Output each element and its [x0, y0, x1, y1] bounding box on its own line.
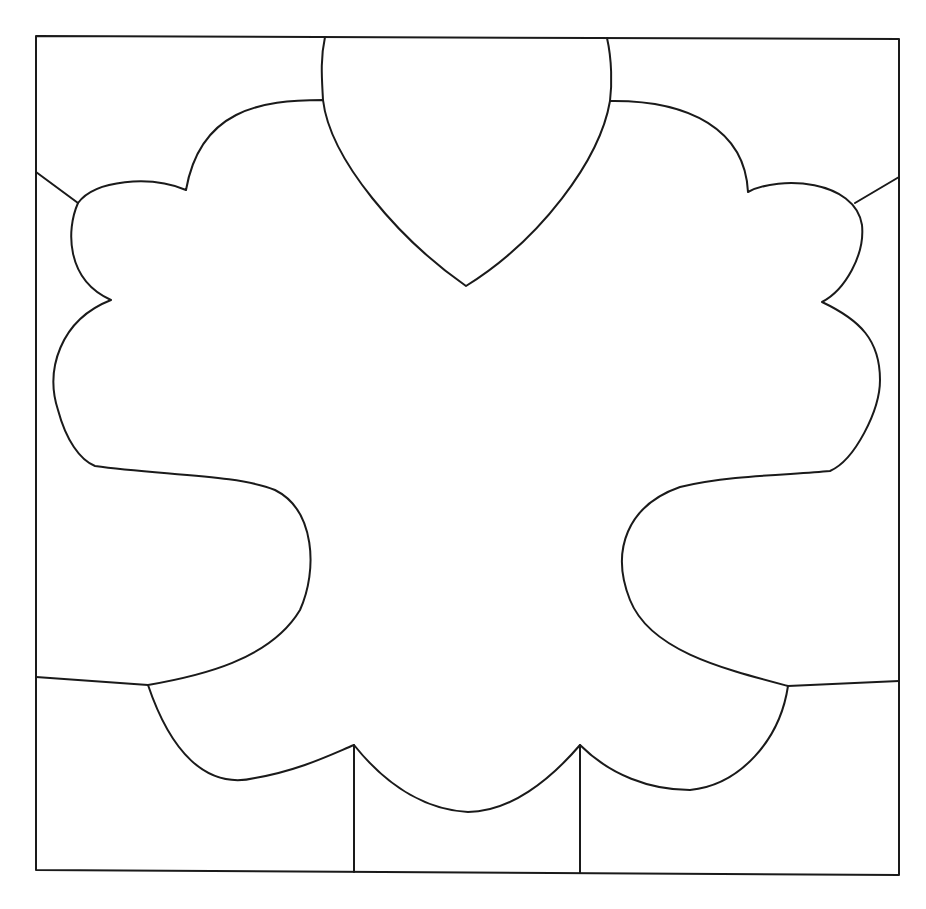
diagram-background	[0, 0, 926, 909]
diagram-canvas	[0, 0, 926, 909]
region-partition-diagram	[0, 0, 926, 909]
